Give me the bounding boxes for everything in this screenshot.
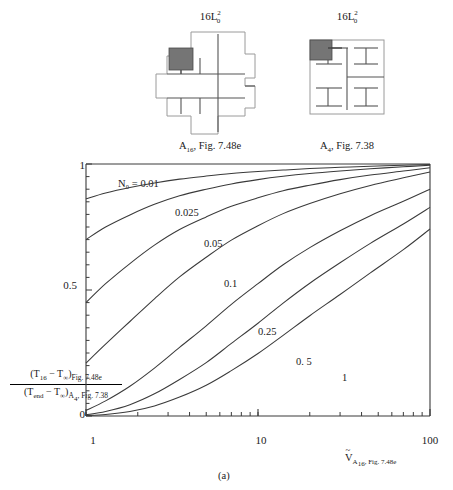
schematic-a4-title: 16L20 [282, 8, 412, 27]
curve-2 [86, 168, 430, 303]
plot-area: (T16 − T∞)Fig. 7.48e (Tend − T∞)A4, Fig.… [0, 160, 453, 490]
schematic-a16-drawing [145, 30, 275, 136]
curve-0 [86, 165, 430, 199]
plot-svg [0, 160, 453, 460]
figure-root: 16L20 [0, 0, 453, 490]
schematic-a16: 16L20 [145, 8, 275, 158]
curve-1 [86, 165, 430, 239]
schematic-a4-caption: A4, Fig. 7.38 [267, 140, 427, 154]
schematic-a4: 16L20 [282, 8, 412, 158]
heat-source-block [310, 40, 332, 60]
schematic-a16-title: 16L20 [145, 8, 275, 27]
heat-source-block [169, 48, 193, 70]
curve-5 [86, 207, 430, 414]
schematic-row: 16L20 [0, 0, 453, 162]
curve-4 [86, 189, 430, 410]
schematic-a16-caption: A16, Fig. 7.48e [130, 140, 290, 154]
plot-curves [86, 165, 430, 416]
panel-caption: (a) [218, 470, 230, 481]
schematic-a4-drawing [282, 30, 412, 136]
plot-axes [86, 164, 430, 416]
